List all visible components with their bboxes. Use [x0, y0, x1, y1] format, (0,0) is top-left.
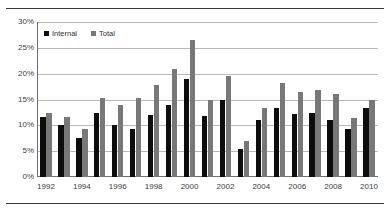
bar-total [369, 100, 374, 177]
bar-total [351, 118, 356, 177]
bars-layer [37, 22, 378, 177]
x-axis-tick-label: 2000 [173, 182, 207, 191]
bar-total [244, 141, 249, 177]
bar-internal [345, 129, 350, 177]
bar-total [190, 40, 195, 177]
x-axis-tick-label: 1994 [65, 182, 99, 191]
bar-total [100, 98, 105, 177]
bar-group [55, 22, 73, 177]
x-axis-tick-label: 2010 [352, 182, 386, 191]
bar-internal [238, 149, 243, 177]
bar-total [136, 98, 141, 177]
bar-group [324, 22, 342, 177]
bar-internal [220, 100, 225, 178]
x-axis-tick-label: 2004 [244, 182, 278, 191]
bar-total [64, 117, 69, 177]
x-axis-tick-label: 2002 [208, 182, 242, 191]
bar-group [199, 22, 217, 177]
bar-internal [148, 115, 153, 177]
bar-group [145, 22, 163, 177]
bar-internal [166, 105, 171, 177]
chart-legend: InternalTotal [44, 29, 115, 38]
legend-swatch-icon [91, 31, 96, 36]
bar-internal [256, 120, 261, 177]
bar-group [234, 22, 252, 177]
y-axis-tick-label: 30% [0, 18, 34, 26]
x-axis-tick-label: 1998 [137, 182, 171, 191]
y-axis-tick-label: 25% [0, 44, 34, 52]
y-axis-tick-label: 5% [0, 147, 34, 155]
bar-total [172, 69, 177, 178]
bar-group [360, 22, 378, 177]
bar-group [163, 22, 181, 177]
bar-total [226, 76, 231, 177]
bar-group [252, 22, 270, 177]
bar-total [208, 100, 213, 178]
bar-internal [292, 114, 297, 177]
y-axis-tick-label: 0% [0, 173, 34, 181]
bar-internal [130, 129, 135, 177]
bar-internal [94, 113, 99, 177]
bar-internal [363, 108, 368, 177]
y-axis-tick-label: 20% [0, 70, 34, 78]
bar-internal [274, 108, 279, 177]
bar-internal [40, 117, 45, 177]
bar-group [37, 22, 55, 177]
bar-total [154, 85, 159, 177]
plot-wrapper: 0%5%10%15%20%25%30% 19921994199619982000… [0, 0, 390, 214]
y-axis-tick-label: 10% [0, 121, 34, 129]
bar-total [315, 90, 320, 177]
bar-group [342, 22, 360, 177]
bar-total [333, 94, 338, 177]
bar-group [216, 22, 234, 177]
chart-figure: 0%5%10%15%20%25%30% 19921994199619982000… [0, 0, 390, 214]
bar-internal [58, 125, 63, 177]
bar-group [91, 22, 109, 177]
bar-internal [309, 113, 314, 177]
x-axis-tick-label: 1996 [101, 182, 135, 191]
legend-swatch-icon [44, 31, 49, 36]
legend-item: Total [91, 29, 115, 38]
bar-group [306, 22, 324, 177]
x-axis-tick-label: 1992 [29, 182, 63, 191]
bar-group [109, 22, 127, 177]
legend-label: Internal [52, 29, 77, 38]
bar-internal [184, 79, 189, 177]
bar-group [288, 22, 306, 177]
bar-group [73, 22, 91, 177]
bar-total [82, 129, 87, 177]
bar-total [46, 113, 51, 177]
bar-internal [202, 116, 207, 177]
bar-total [298, 92, 303, 177]
y-axis-tick-label: 15% [0, 96, 34, 104]
bar-total [262, 108, 267, 177]
bar-internal [76, 138, 81, 177]
bar-total [118, 105, 123, 177]
x-axis-tick-label: 2006 [280, 182, 314, 191]
bar-group [181, 22, 199, 177]
legend-label: Total [99, 29, 115, 38]
bar-internal [327, 120, 332, 177]
x-axis-tick-label: 2008 [316, 182, 350, 191]
bar-group [270, 22, 288, 177]
legend-item: Internal [44, 29, 77, 38]
bar-group [127, 22, 145, 177]
bar-internal [112, 125, 117, 177]
bar-total [280, 83, 285, 177]
